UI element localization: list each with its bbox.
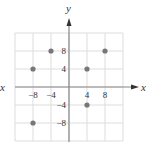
x-tick-label: 8 <box>103 90 108 100</box>
stray-x-label: x <box>0 81 5 93</box>
y-tick-label: 4 <box>62 64 67 74</box>
y-tick-label: −8 <box>56 118 66 128</box>
x-axis-label: x <box>140 81 146 93</box>
y-tick-label: 8 <box>62 46 67 56</box>
x-tick-label: −8 <box>28 90 38 100</box>
data-point <box>102 48 107 53</box>
scatter-plot: x y x −8−44884−4−8 <box>0 0 150 148</box>
y-axis-label: y <box>65 2 71 14</box>
x-tick-label: 4 <box>85 90 90 100</box>
data-point <box>48 48 53 53</box>
data-point <box>30 66 35 71</box>
x-axis-arrow-icon <box>131 85 139 90</box>
data-point <box>84 102 89 107</box>
y-tick-label: −4 <box>56 100 66 110</box>
y-axis-arrow-icon <box>67 18 72 26</box>
data-point <box>30 120 35 125</box>
x-tick-label: −4 <box>46 90 56 100</box>
data-point <box>84 66 89 71</box>
